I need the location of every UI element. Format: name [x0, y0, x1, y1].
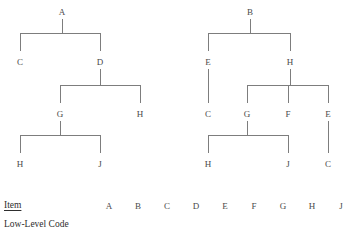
tree-b-edge-g-bar [208, 135, 289, 136]
table-row-label-item: Item [4, 200, 21, 210]
tree-b-edge-g-stem [247, 121, 248, 135]
tree-b-edge-h-to-e [328, 85, 329, 103]
table-column-header-b: B [135, 202, 141, 211]
tree-b-node-b: B [247, 8, 253, 17]
table-column-header-c: C [164, 202, 170, 211]
tree-a-edge-g-stem [60, 121, 61, 135]
tree-b-node-c-level2: C [205, 110, 211, 119]
table-column-header-f: F [251, 202, 256, 211]
tree-a-node-d: D [97, 58, 104, 67]
tree-a-edge-a-to-c [20, 33, 21, 51]
tree-a-edge-g-bar [20, 135, 101, 136]
tree-a-edge-d-to-g [60, 85, 61, 103]
tree-b-edge-h-stem [290, 69, 291, 85]
tree-a-node-c: C [17, 58, 23, 67]
tree-b-edge-b-to-h [290, 33, 291, 51]
tree-b-node-f: F [285, 110, 290, 119]
tree-b-node-h-level1: H [287, 58, 294, 67]
tree-a-edge-g-to-j [100, 135, 101, 153]
tree-a-node-h-level2: H [137, 110, 144, 119]
tree-b-node-j: J [286, 160, 290, 169]
tree-b-node-c-level3: C [325, 160, 331, 169]
tree-b-edge-e-to-c [208, 69, 209, 103]
tree-a-node-j: J [98, 160, 102, 169]
tree-b-edge-h-to-g [247, 85, 248, 103]
tree-a-edge-d-bar [60, 85, 141, 86]
table-column-header-j: J [339, 202, 343, 211]
tree-a-edge-d-stem [100, 69, 101, 85]
tree-b-edge-b-stem [250, 19, 251, 33]
table-column-header-h: H [309, 202, 316, 211]
table-column-header-g: G [280, 202, 287, 211]
tree-b-edge-g-to-h [208, 135, 209, 153]
tree-b-edge-g-to-j [288, 135, 289, 153]
tree-b-edge-b-to-e [208, 33, 209, 51]
tree-a-node-a: A [59, 8, 66, 17]
tree-a-edge-g-to-h [20, 135, 21, 153]
tree-a-edge-a-bar [20, 33, 101, 34]
tree-b-node-h-level3: H [205, 160, 212, 169]
tree-a-edge-a-to-d [100, 33, 101, 51]
tree-b-edge-e2-to-c [328, 121, 329, 153]
tree-a-node-h-level3: H [17, 160, 24, 169]
tree-a-edge-d-to-h [140, 85, 141, 103]
tree-b-node-e-level1: E [205, 58, 211, 67]
tree-a-edge-a-stem [62, 19, 63, 33]
table-column-header-d: D [193, 202, 200, 211]
table-column-header-e: E [222, 202, 228, 211]
table-column-header-a: A [106, 202, 113, 211]
bom-tree-diagram-page: A C D G H H J B [0, 0, 354, 235]
tree-b-edge-h-to-f [288, 85, 289, 103]
tree-b-node-e-level2: E [325, 110, 331, 119]
tree-b-node-g: G [244, 110, 251, 119]
table-row-label-low-level-code: Low-Level Code [4, 219, 69, 229]
tree-a-node-g: G [57, 110, 64, 119]
tree-b-edge-b-bar [208, 33, 291, 34]
